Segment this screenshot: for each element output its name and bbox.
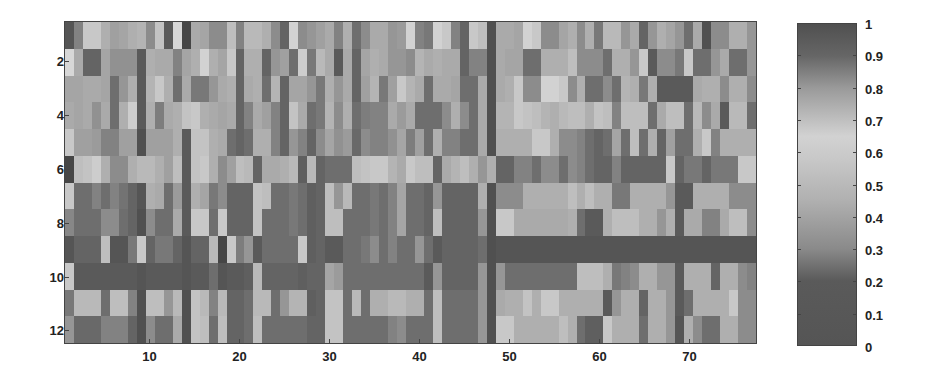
heatmap-cell — [496, 102, 505, 129]
heatmap-cell — [729, 22, 738, 49]
heatmap-cell — [585, 76, 594, 103]
heatmap-cell — [253, 102, 262, 129]
y-tick-mark — [64, 277, 69, 278]
heatmap-cell — [532, 22, 541, 49]
heatmap-cell — [83, 22, 92, 49]
heatmap-cell — [559, 156, 568, 183]
heatmap-cell — [83, 263, 92, 290]
colorbar-tick-label: 0.3 — [865, 243, 883, 258]
heatmap-cell — [559, 209, 568, 236]
heatmap-cell — [146, 263, 155, 290]
heatmap-cell — [227, 209, 236, 236]
heatmap-cell — [74, 49, 83, 76]
heatmap-cell — [666, 49, 675, 76]
heatmap-cell — [594, 263, 603, 290]
heatmap-cell — [146, 209, 155, 236]
heatmap-cell — [532, 102, 541, 129]
heatmap-cell — [236, 183, 245, 210]
heatmap-cell — [74, 290, 83, 317]
heatmap-cell — [191, 316, 200, 343]
heatmap-cell — [702, 209, 711, 236]
heatmap-cell — [612, 183, 621, 210]
heatmap-cell — [316, 209, 325, 236]
heatmap-cell — [307, 49, 316, 76]
heatmap-cell — [523, 236, 532, 263]
heatmap-cell — [191, 76, 200, 103]
heatmap-cell — [424, 22, 433, 49]
heatmap-cell — [747, 129, 756, 156]
heatmap-cell — [514, 183, 523, 210]
heatmap-cell — [155, 183, 164, 210]
heatmap-cell — [289, 156, 298, 183]
heatmap-cell — [352, 129, 361, 156]
heatmap-cell — [227, 129, 236, 156]
heatmap-cell — [469, 102, 478, 129]
heatmap-cell — [496, 209, 505, 236]
heatmap-cell — [684, 156, 693, 183]
heatmap-cell — [316, 316, 325, 343]
heatmap-cell — [702, 183, 711, 210]
heatmap-cell — [182, 183, 191, 210]
heatmap-cell — [325, 263, 334, 290]
y-tick-label: 10 — [50, 270, 64, 285]
heatmap-cell — [119, 316, 128, 343]
heatmap-cell — [334, 209, 343, 236]
heatmap-cell — [747, 290, 756, 317]
heatmap-cell — [693, 22, 702, 49]
heatmap-cell — [325, 76, 334, 103]
heatmap-cell — [630, 236, 639, 263]
heatmap-cell — [164, 156, 173, 183]
heatmap-cell — [630, 102, 639, 129]
heatmap-cell — [244, 236, 253, 263]
x-tick-label: 40 — [412, 349, 426, 364]
heatmap-cell — [209, 263, 218, 290]
heatmap-cell — [289, 76, 298, 103]
heatmap-cell — [397, 316, 406, 343]
heatmap-cell — [200, 209, 209, 236]
heatmap-cell — [379, 49, 388, 76]
heatmap-cell — [460, 22, 469, 49]
heatmap-cell — [621, 209, 630, 236]
heatmap-cell — [702, 236, 711, 263]
heatmap-cell — [262, 263, 271, 290]
heatmap-cell — [191, 183, 200, 210]
heatmap-cell — [406, 129, 415, 156]
heatmap-cell — [262, 22, 271, 49]
heatmap-cell — [442, 236, 451, 263]
heatmap-cell — [451, 316, 460, 343]
heatmap-cell — [370, 236, 379, 263]
heatmap-cell — [83, 236, 92, 263]
heatmap-cell — [271, 76, 280, 103]
heatmap-cell — [146, 290, 155, 317]
heatmap-cell — [191, 22, 200, 49]
heatmap-cell — [630, 316, 639, 343]
heatmap-cell — [720, 316, 729, 343]
heatmap-cell — [280, 209, 289, 236]
heatmap-cell — [262, 76, 271, 103]
colorbar-tick-label: 0.4 — [865, 210, 883, 225]
heatmap-cell — [200, 263, 209, 290]
heatmap-cell — [316, 49, 325, 76]
heatmap-cell — [415, 209, 424, 236]
heatmap-cell — [469, 129, 478, 156]
heatmap-cell — [729, 236, 738, 263]
heatmap-cell — [218, 183, 227, 210]
heatmap-cell — [155, 129, 164, 156]
heatmap-cell — [478, 129, 487, 156]
y-tick-mark — [64, 330, 69, 331]
heatmap-cell — [236, 236, 245, 263]
heatmap-cell — [218, 316, 227, 343]
heatmap-cell — [639, 236, 648, 263]
heatmap-cell — [298, 102, 307, 129]
heatmap-cell — [415, 156, 424, 183]
heatmap-cell — [577, 236, 586, 263]
heatmap-cell — [729, 76, 738, 103]
heatmap-cell — [128, 76, 137, 103]
heatmap-cell — [585, 49, 594, 76]
heatmap-cell — [83, 129, 92, 156]
heatmap-cell — [496, 183, 505, 210]
heatmap-cell — [271, 263, 280, 290]
heatmap-cell — [505, 49, 514, 76]
heatmap-cell — [119, 129, 128, 156]
heatmap-cell — [271, 209, 280, 236]
